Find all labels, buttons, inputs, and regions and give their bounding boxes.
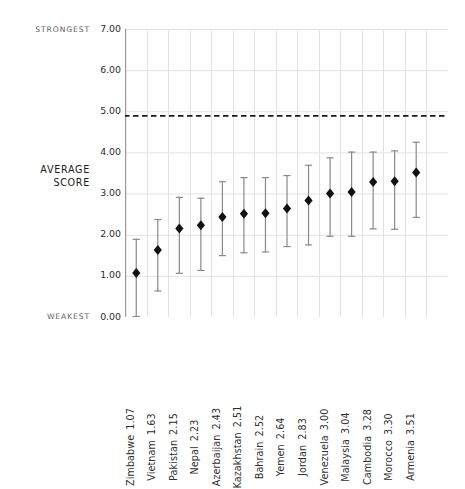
y-axis-tick-label: 7.00 <box>87 23 121 34</box>
category-value: 2.51 <box>232 405 243 427</box>
y-axis-tick-label: 5.00 <box>87 105 121 116</box>
category-value: 1.07 <box>125 408 136 430</box>
category-value: 3.28 <box>362 409 373 431</box>
category-value: 2.83 <box>297 418 308 440</box>
x-axis-label-cell: Vietnam1.63 <box>147 317 169 453</box>
x-axis-label-cell: Kazakhstan2.51 <box>233 317 255 453</box>
data-point-marker <box>326 189 334 199</box>
category-name: Vietnam <box>146 440 157 481</box>
category-value: 3.30 <box>383 413 394 435</box>
data-point-marker <box>412 168 420 178</box>
x-axis-category-label: Bahrain2.52 <box>254 415 265 480</box>
x-axis-label-cell: Malaysia3.04 <box>340 317 362 453</box>
y-axis-tick-labels: 0.001.002.003.004.005.006.007.00 <box>85 0 121 453</box>
data-point-marker <box>369 177 377 187</box>
category-value: 2.23 <box>189 420 200 442</box>
category-value: 3.04 <box>340 412 351 434</box>
data-point-group <box>132 239 140 317</box>
y-axis-tick-label: 3.00 <box>87 187 121 198</box>
x-axis-category-label: Pakistan2.15 <box>168 413 179 481</box>
data-point-marker <box>283 203 291 213</box>
data-point-group <box>326 157 334 236</box>
category-name: Pakistan <box>168 440 179 481</box>
x-axis-category-label: Venezuela3.00 <box>319 409 330 486</box>
data-point-marker <box>240 209 248 219</box>
x-axis-category-label: Yemen2.64 <box>275 417 286 476</box>
category-name: Azerbaijan <box>211 435 222 487</box>
x-axis-label-cell: Bahrain2.52 <box>254 317 276 453</box>
category-name: Cambodia <box>362 436 373 485</box>
x-axis-label-cell: Armenia3.51 <box>405 317 427 453</box>
data-point-group <box>218 181 226 256</box>
plot-svg <box>125 29 448 317</box>
x-axis-category-label: Zimbabwe1.07 <box>125 408 136 486</box>
x-axis-category-label: Morocco3.30 <box>383 413 394 481</box>
y-axis-title-line2: SCORE <box>4 177 90 190</box>
data-point-group <box>283 175 291 247</box>
x-axis-category-label: Nepal2.23 <box>189 420 200 475</box>
data-point-marker <box>218 212 226 222</box>
y-axis-tick-label: 0.00 <box>87 311 121 322</box>
y-axis-tick-label: 2.00 <box>87 228 121 239</box>
x-axis-category-label: Kazakhstan2.51 <box>232 405 243 488</box>
category-name: Malaysia <box>340 439 351 482</box>
data-point-group <box>240 177 248 253</box>
category-value: 3.00 <box>319 409 330 431</box>
axis-annotation-weakest: WEAKEST <box>4 312 90 321</box>
plot-area <box>125 29 448 317</box>
category-name: Venezuela <box>319 435 330 485</box>
x-axis-label-cell: Nepal2.23 <box>190 317 212 453</box>
x-axis-label-cell: Zimbabwe1.07 <box>125 317 147 453</box>
data-point-group <box>197 198 205 271</box>
data-point-group <box>304 165 312 246</box>
category-value: 1.63 <box>146 413 157 435</box>
data-point-group <box>154 219 162 291</box>
x-axis-label-cell: Cambodia3.28 <box>362 317 384 453</box>
category-name: Yemen <box>275 444 286 476</box>
x-axis-category-label: Cambodia3.28 <box>362 409 373 485</box>
category-name: Armenia <box>405 440 416 481</box>
y-axis-tick-label: 4.00 <box>87 146 121 157</box>
data-point-marker <box>197 220 205 230</box>
category-name: Zimbabwe <box>125 435 136 486</box>
category-value: 3.51 <box>405 413 416 435</box>
category-name: Bahrain <box>254 441 265 479</box>
data-point-group <box>391 150 399 229</box>
data-point-group <box>369 152 377 230</box>
x-axis-label-cell: Venezuela3.00 <box>319 317 341 453</box>
y-axis-title: AVERAGE SCORE <box>4 164 90 189</box>
category-name: Morocco <box>383 440 394 481</box>
x-axis-category-label: Azerbaijan2.43 <box>211 408 222 486</box>
category-value: 2.15 <box>168 413 179 435</box>
category-value: 2.64 <box>275 417 286 439</box>
grid-lines <box>125 29 448 317</box>
x-axis-label-cell: Pakistan2.15 <box>168 317 190 453</box>
axis-annotation-strongest: STRONGEST <box>4 25 90 34</box>
y-axis-tick-label: 1.00 <box>87 269 121 280</box>
x-axis-label-cell: Yemen2.64 <box>276 317 298 453</box>
x-axis-label-cell: Jordan2.83 <box>297 317 319 453</box>
data-point-group <box>261 177 269 252</box>
x-axis-category-labels: Zimbabwe1.07Vietnam1.63Pakistan2.15Nepal… <box>125 317 448 453</box>
x-axis-category-label: Jordan2.83 <box>297 418 308 476</box>
y-axis-title-line1: AVERAGE <box>4 164 90 177</box>
data-point-marker <box>304 196 312 206</box>
x-axis-category-label: Malaysia3.04 <box>340 412 351 482</box>
data-point-marker <box>154 245 162 255</box>
x-axis-category-label: Armenia3.51 <box>405 413 416 481</box>
y-axis-tick-label: 6.00 <box>87 64 121 75</box>
x-axis-category-label: Vietnam1.63 <box>146 413 157 480</box>
x-axis-label-cell: Azerbaijan2.43 <box>211 317 233 453</box>
x-axis-label-cell: Morocco3.30 <box>383 317 405 453</box>
category-value: 2.43 <box>211 408 222 430</box>
category-name: Jordan <box>297 445 308 476</box>
category-name: Kazakhstan <box>232 432 243 488</box>
data-point-marker <box>175 224 183 234</box>
data-point-marker <box>261 208 269 218</box>
category-value: 2.52 <box>254 415 265 437</box>
data-point-marker <box>348 187 356 197</box>
category-name: Nepal <box>189 446 200 474</box>
data-point-marker <box>391 176 399 186</box>
